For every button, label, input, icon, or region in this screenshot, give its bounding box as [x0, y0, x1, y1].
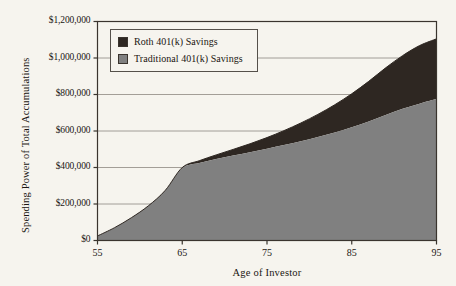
- legend-item-traditional: Traditional 401(k) Savings: [111, 50, 257, 67]
- area-traditional-401k: [98, 99, 437, 240]
- legend-swatch-roth: [118, 37, 128, 47]
- x-axis-title: Age of Investor: [78, 267, 456, 278]
- legend-label-traditional: Traditional 401(k) Savings: [134, 53, 243, 64]
- chart-container: Spending Power of Total Accumulations $0…: [0, 0, 456, 286]
- legend-item-roth: Roth 401(k) Savings: [111, 33, 257, 50]
- chart-legend: Roth 401(k) Savings Traditional 401(k) S…: [110, 29, 258, 72]
- legend-label-roth: Roth 401(k) Savings: [134, 36, 218, 47]
- legend-swatch-traditional: [118, 54, 128, 64]
